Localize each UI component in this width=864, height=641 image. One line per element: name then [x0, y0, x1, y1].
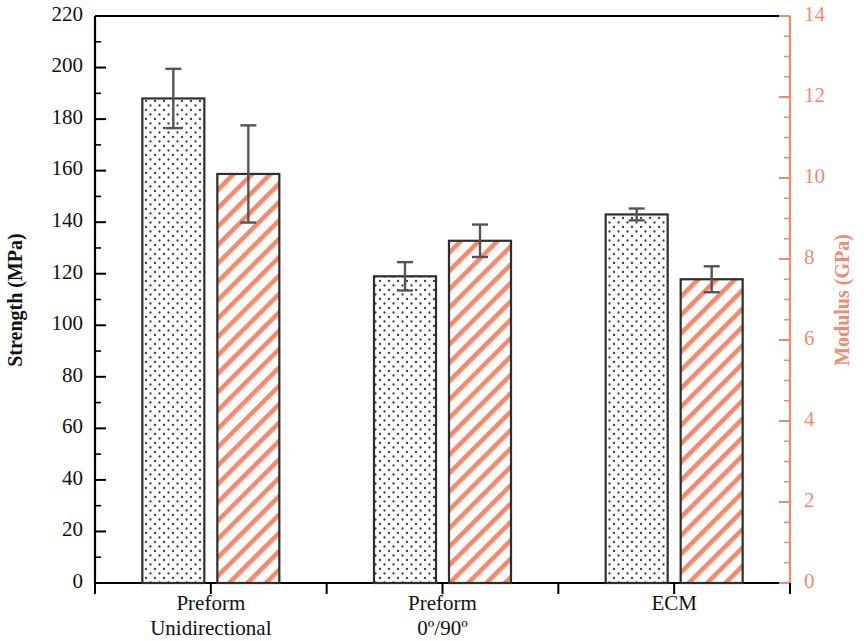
left-tick-label: 20	[62, 517, 83, 541]
right-tick-label: 12	[804, 83, 825, 107]
category-label: Preform0º/90º	[408, 591, 477, 640]
right-tick-label: 6	[804, 326, 815, 350]
left-axis-tick-labels: 020406080100120140160180200220	[52, 2, 84, 593]
x-axis-category-labels: PreformUnidirectionalPreform0º/90ºECM	[150, 591, 697, 640]
bar	[217, 174, 279, 583]
right-tick-label: 2	[804, 488, 815, 512]
bar	[374, 276, 436, 583]
right-tick-label: 8	[804, 245, 815, 269]
bar	[449, 241, 511, 583]
left-tick-label: 120	[52, 260, 84, 284]
bar	[142, 98, 204, 583]
right-tick-label: 10	[804, 164, 825, 188]
left-tick-label: 220	[52, 2, 84, 26]
right-axis-tick-labels: 02468101214	[804, 2, 826, 593]
left-tick-label: 40	[62, 466, 83, 490]
right-tick-label: 14	[804, 2, 826, 26]
right-axis-title: Modulus (GPa)	[831, 234, 854, 366]
category-label: PreformUnidirectional	[150, 591, 271, 640]
category-label: ECM	[651, 591, 697, 615]
left-axis-title: Strength (MPa)	[4, 233, 27, 367]
left-tick-label: 100	[52, 311, 84, 335]
right-tick-label: 0	[804, 569, 815, 593]
left-tick-label: 180	[52, 105, 84, 129]
chart-container: 020406080100120140160180200220 024681012…	[0, 0, 864, 641]
bar-chart: 020406080100120140160180200220 024681012…	[0, 0, 864, 641]
bar	[606, 214, 668, 583]
left-tick-label: 60	[62, 414, 83, 438]
left-tick-label: 140	[52, 208, 84, 232]
left-tick-label: 200	[52, 53, 84, 77]
left-tick-label: 0	[73, 569, 84, 593]
right-tick-label: 4	[804, 407, 815, 431]
left-tick-label: 160	[52, 156, 84, 180]
left-tick-label: 80	[62, 363, 83, 387]
bar	[681, 279, 743, 583]
